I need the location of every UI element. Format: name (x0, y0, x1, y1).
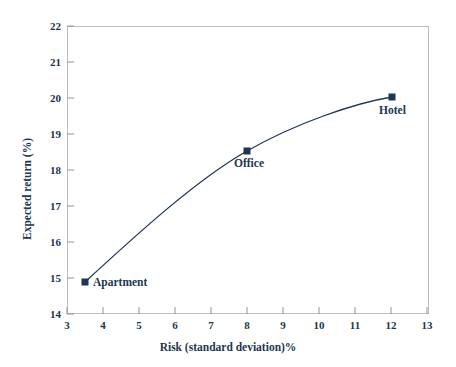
x-tick-label-13: 13 (416, 320, 438, 331)
point-label-office: Office (234, 158, 264, 170)
chart-figure: 22 21 20 19 18 17 16 15 14 3 4 5 6 7 8 9… (0, 0, 456, 367)
x-tick-label-8: 8 (236, 320, 258, 331)
marker-apartment[interactable] (82, 279, 89, 286)
marker-office[interactable] (244, 148, 251, 155)
y-tick-label-22: 22 (39, 21, 61, 32)
y-tick-label-15: 15 (39, 273, 61, 284)
x-tick-label-5: 5 (128, 320, 150, 331)
x-axis-title: Risk (standard deviation)% (0, 342, 456, 354)
x-tick-label-4: 4 (92, 320, 114, 331)
point-label-apartment: Apartment (93, 277, 147, 289)
x-axis-tick-marks (67, 307, 427, 314)
x-tick-label-7: 7 (200, 320, 222, 331)
y-tick-label-14: 14 (39, 309, 61, 320)
y-tick-label-17: 17 (39, 201, 61, 212)
y-tick-label-18: 18 (39, 165, 61, 176)
marker-hotel[interactable] (389, 94, 396, 101)
y-tick-label-20: 20 (39, 93, 61, 104)
risk-return-curve (85, 97, 392, 282)
x-tick-label-11: 11 (344, 320, 366, 331)
chart-canvas (0, 0, 456, 367)
y-tick-label-19: 19 (39, 129, 61, 140)
x-tick-label-12: 12 (380, 320, 402, 331)
y-tick-label-21: 21 (39, 57, 61, 68)
y-tick-label-16: 16 (39, 237, 61, 248)
y-axis-tick-marks (67, 26, 74, 314)
x-tick-label-10: 10 (308, 320, 330, 331)
y-axis-title: Expected return (%) (22, 138, 34, 240)
point-label-hotel: Hotel (379, 105, 406, 117)
x-tick-label-3: 3 (56, 320, 78, 331)
data-point-markers (82, 94, 396, 286)
x-tick-label-6: 6 (164, 320, 186, 331)
x-tick-label-9: 9 (272, 320, 294, 331)
